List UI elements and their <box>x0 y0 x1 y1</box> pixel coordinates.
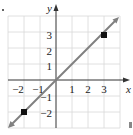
x-tick-label: −2 <box>12 83 24 95</box>
x-axis-arrow-icon <box>123 78 130 83</box>
y-tick-label: 1 <box>47 60 53 72</box>
x-axis-label: x <box>125 83 131 95</box>
y-tick-label: 2 <box>47 45 53 57</box>
y-axis-arrow-icon <box>54 4 59 11</box>
y-tick-label: −2 <box>40 107 52 119</box>
coordinate-plane: x y −2 −1 1 2 3 3 2 1 −1 −2 <box>0 0 133 135</box>
cropped-artifact <box>129 122 132 128</box>
x-tick-label: 1 <box>69 83 75 95</box>
data-point <box>101 32 107 38</box>
data-point <box>21 109 27 115</box>
y-axis-label: y <box>46 2 52 14</box>
x-tick-label: 2 <box>85 83 91 95</box>
bullet-mark <box>2 9 4 11</box>
y-tick-label: 3 <box>47 29 53 41</box>
x-tick-label: 3 <box>101 83 107 95</box>
